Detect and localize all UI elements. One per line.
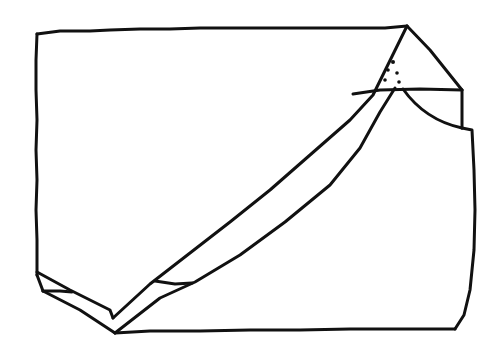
dot-mark xyxy=(383,78,387,82)
dot-mark xyxy=(397,80,401,84)
top-edge xyxy=(37,26,407,34)
diagonal-strip-upper xyxy=(113,26,407,318)
lower-fold-diagonal xyxy=(43,291,115,333)
left-edge xyxy=(36,34,37,275)
dot-mark xyxy=(391,60,395,64)
dot-mark xyxy=(395,71,399,75)
dot-mark xyxy=(386,68,390,72)
curved-fold xyxy=(403,89,462,128)
right-edge xyxy=(455,128,475,329)
corner-fold-left xyxy=(37,275,43,291)
bottom-edge xyxy=(115,329,455,333)
folded-paper-sketch xyxy=(0,0,496,364)
diagonal-strip-lower xyxy=(115,88,395,333)
triangle-right-side xyxy=(407,26,462,90)
strip-crossbar xyxy=(155,281,192,284)
